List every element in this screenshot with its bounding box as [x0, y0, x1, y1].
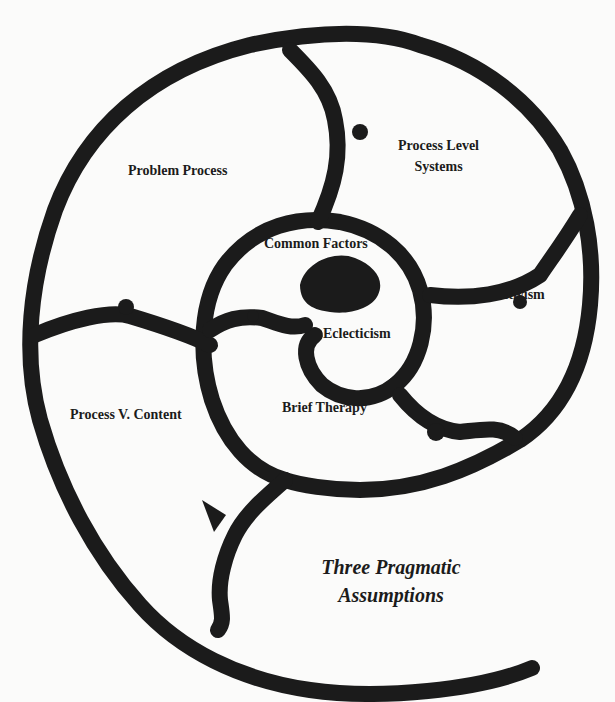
septum-top — [290, 50, 338, 222]
chamber-label-text: Common Factors — [264, 236, 368, 251]
chamber-label-text: Problem Process — [128, 163, 227, 178]
chamber-label-text: Eclecticism — [323, 326, 391, 341]
siphuncle-bump — [118, 299, 134, 315]
title-line: Assumptions — [306, 581, 476, 609]
chamber-label-brief-therapy: Brief Therapy — [282, 397, 367, 418]
shell-core — [300, 256, 380, 313]
siphuncle-bump — [427, 423, 445, 441]
septum-lower-left — [218, 480, 285, 630]
chamber-label-problem-process: Problem Process — [128, 160, 227, 181]
chamber-label-text: Constructivism — [453, 287, 545, 302]
septum-lower-right — [400, 395, 515, 438]
chamber-label-eclecticism: Eclecticism — [323, 323, 391, 344]
inner-shell-wall — [306, 335, 395, 398]
chamber-label-process-level-systems: Process Level Systems — [398, 135, 479, 177]
title-line: Three Pragmatic — [306, 553, 476, 581]
chamber-label-text: Brief Therapy — [282, 400, 367, 415]
chamber-label-constructivism: Constructivism — [453, 284, 545, 305]
siphuncle-bump — [202, 500, 226, 532]
diagram-title: Three Pragmatic Assumptions — [306, 553, 476, 609]
siphuncle-bump — [352, 124, 368, 140]
chamber-label-process-v-content: Process V. Content — [70, 404, 182, 425]
septum-left — [35, 314, 210, 345]
chamber-label-common-factors: Common Factors — [264, 233, 368, 254]
chamber-label-text: Process Level — [398, 135, 479, 156]
chamber-label-text: Systems — [398, 156, 479, 177]
siphuncle-bump — [247, 310, 259, 322]
nautilus-diagram: Problem Process Process Level Systems Co… — [0, 0, 615, 702]
chamber-label-text: Process V. Content — [70, 407, 182, 422]
